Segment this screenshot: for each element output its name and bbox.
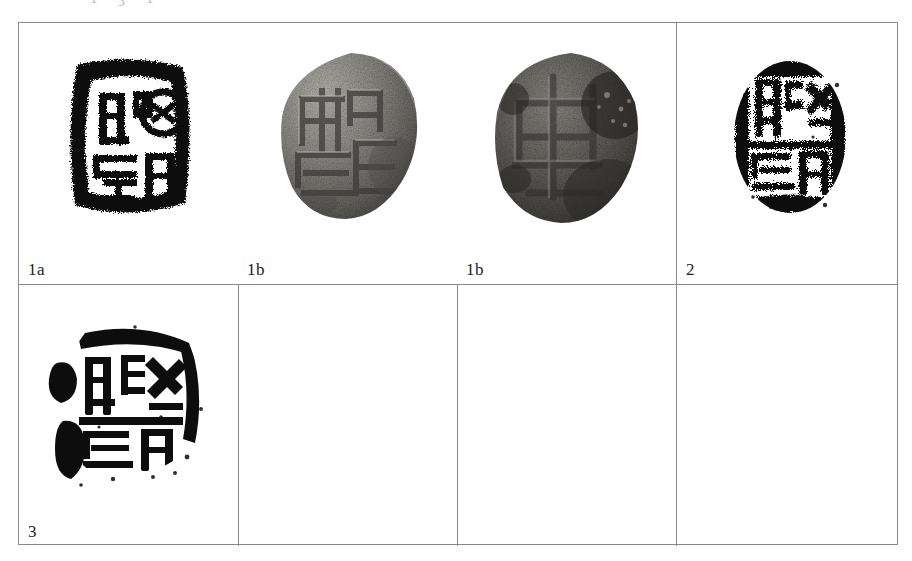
figure-area <box>19 285 238 546</box>
seal-photo-1b-angled-image <box>489 47 649 233</box>
top-cropped-text-fragment: 1 <box>146 0 154 7</box>
plate-cell-3: 3 <box>19 285 238 546</box>
figure-area <box>677 23 899 284</box>
plate-cell-label: 3 <box>28 523 37 540</box>
plate-cell-label: 1b <box>466 261 484 278</box>
plate-cell-2: 2 <box>676 23 899 284</box>
seal-rubbing-3-image <box>41 317 216 497</box>
figure-area <box>238 23 457 284</box>
top-cropped-text-fragment: · <box>62 0 67 7</box>
plate-cell-1b-front: 1b <box>238 23 457 284</box>
seal-photo-1b-front-image <box>276 47 426 229</box>
top-cropped-text: · 1 ʒ 1 <box>0 0 912 12</box>
top-cropped-text-fragment: ʒ <box>118 0 125 7</box>
top-cropped-text-fragment: 1 <box>90 0 98 7</box>
plate-cell-label: 1b <box>247 261 265 278</box>
seal-rubbing-2-image <box>725 55 855 220</box>
plate-cell-label: 2 <box>686 261 695 278</box>
plate-cell-empty-3 <box>457 285 676 546</box>
plate-cell-1b-angled: 1b <box>457 23 676 284</box>
figure-area <box>19 23 238 284</box>
plate-cell-1a: 1a <box>19 23 238 284</box>
figure-plate-table: 1a <box>18 22 898 545</box>
seal-rubbing-1a-image <box>59 51 199 226</box>
plate-cell-empty-4 <box>676 285 899 546</box>
figure-area <box>457 23 676 284</box>
plate-row-top: 1a <box>19 23 897 285</box>
plate-cell-empty-2 <box>238 285 457 546</box>
plate-cell-label: 1a <box>28 261 45 278</box>
plate-row-bottom: 3 <box>19 285 897 546</box>
